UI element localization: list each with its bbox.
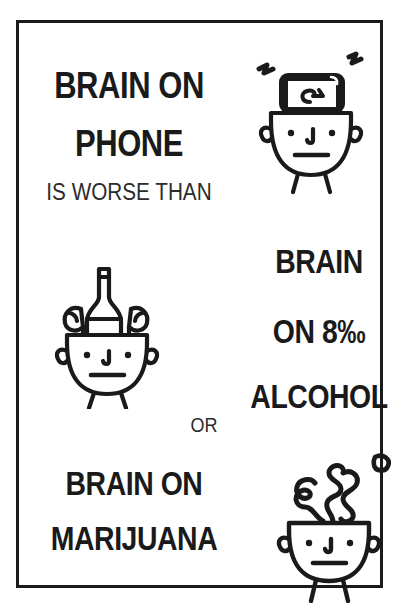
marijuana-headline-line2: MARIJUANA <box>44 522 225 555</box>
open-head-with-smartphone-icon <box>255 51 367 196</box>
phone-headline-line2: PHONE <box>34 126 223 162</box>
open-head-with-bottle-and-glasses-icon <box>47 261 165 409</box>
connector-or-label: OR <box>164 415 245 435</box>
alcohol-headline-line1: BRAIN <box>246 245 392 278</box>
poster-border-frame: BRAIN ON PHONE IS WORSE THAN <box>16 20 383 588</box>
alcohol-headline-line2: ON 8‰ <box>246 315 392 348</box>
phone-headline-line1: BRAIN ON <box>34 68 223 104</box>
alcohol-headline-line3: ALCOHOL <box>246 380 392 413</box>
open-head-with-smoke-icon <box>271 433 399 603</box>
phone-subline: IS WORSE THAN <box>30 181 228 204</box>
marijuana-headline-line1: BRAIN ON <box>44 467 225 500</box>
poster-canvas: BRAIN ON PHONE IS WORSE THAN <box>0 0 404 614</box>
